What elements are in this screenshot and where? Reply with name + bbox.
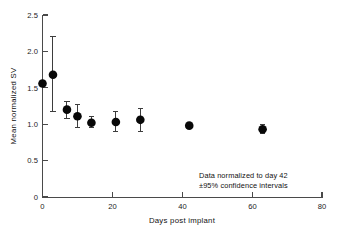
y-tick-label-1-0: 1.0 <box>27 120 38 129</box>
x-tick-label-60: 60 <box>248 202 257 211</box>
chart-figure: 2.5 2.0 1.5 1.0 0.5 0 0 20 40 60 80 Days… <box>0 0 339 238</box>
x-axis-ticks: 0 20 40 60 80 <box>40 192 326 211</box>
data-point-marker <box>38 79 47 88</box>
data-point-group <box>185 121 194 130</box>
data-point-marker <box>258 125 267 134</box>
data-point-marker <box>185 121 194 130</box>
data-point-marker <box>136 116 145 125</box>
y-tick-label-1-5: 1.5 <box>27 84 38 93</box>
y-tick-label-0-5: 0.5 <box>27 156 38 165</box>
data-point-group <box>63 102 72 119</box>
x-tick-label-20: 20 <box>108 202 117 211</box>
annotation-line-2: ±95% confidence intervals <box>199 181 288 190</box>
data-point-group <box>136 108 145 131</box>
data-point-marker <box>73 112 82 121</box>
scatter-plot-canvas: 2.5 2.0 1.5 1.0 0.5 0 0 20 40 60 80 Days… <box>0 0 339 238</box>
data-point-marker <box>112 118 121 127</box>
data-point-group <box>73 105 82 128</box>
data-point-group <box>258 124 267 133</box>
data-series <box>38 37 267 134</box>
y-tick-label-0: 0 <box>34 193 38 202</box>
data-point-marker <box>63 105 72 114</box>
data-point-group <box>49 37 58 111</box>
data-point-marker <box>49 70 58 79</box>
annotation-block: Data normalized to day 42 ±95% confidenc… <box>199 171 288 190</box>
data-point-group <box>38 79 47 88</box>
data-point-group <box>112 112 121 132</box>
y-tick-label-2-5: 2.5 <box>27 11 38 20</box>
annotation-line-1: Data normalized to day 42 <box>199 171 288 180</box>
y-tick-label-2-0: 2.0 <box>27 47 38 56</box>
data-point-marker <box>87 118 96 127</box>
x-tick-label-80: 80 <box>318 202 327 211</box>
data-point-group <box>87 117 96 127</box>
x-tick-label-40: 40 <box>178 202 187 211</box>
y-axis-title: Mean normalized SV <box>9 67 18 144</box>
x-axis-title: Days post implant <box>149 216 216 225</box>
x-tick-label-0: 0 <box>40 202 44 211</box>
y-axis-ticks: 2.5 2.0 1.5 1.0 0.5 0 <box>27 11 48 202</box>
